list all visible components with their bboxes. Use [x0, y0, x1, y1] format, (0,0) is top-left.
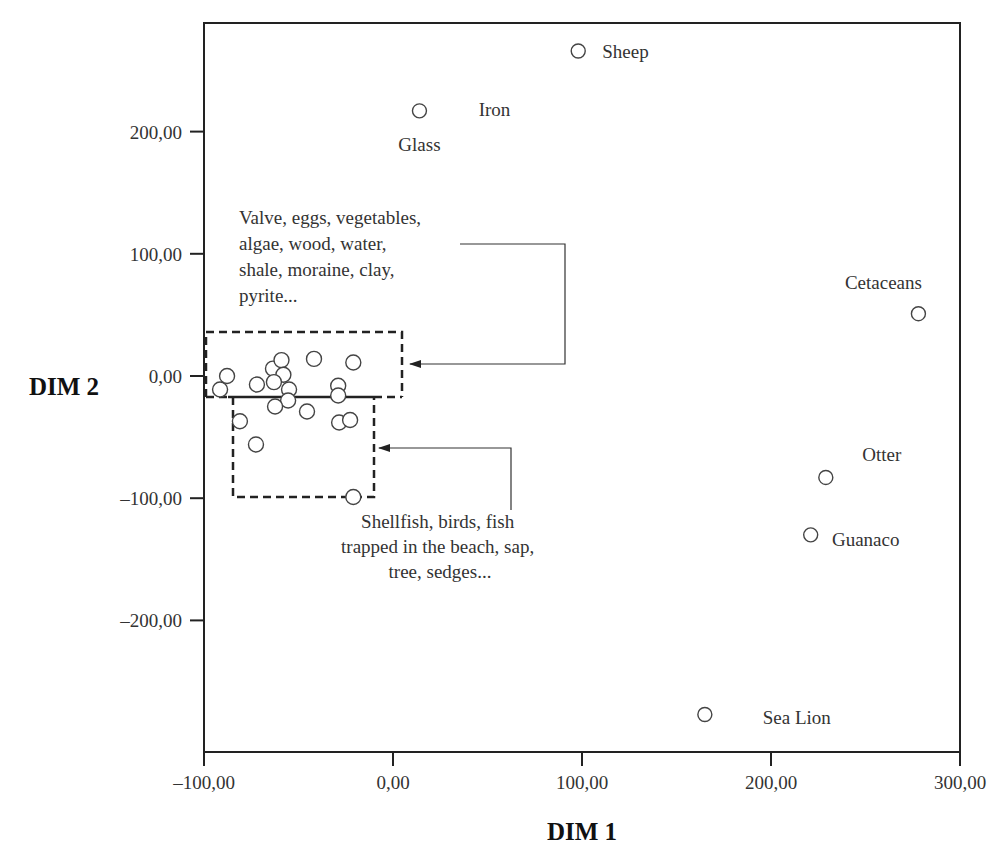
- point-label: Cetaceans: [845, 272, 922, 293]
- point-label: Sea Lion: [763, 707, 832, 728]
- x-axis-title: DIM 1: [547, 818, 617, 845]
- data-point: [911, 307, 925, 321]
- x-tick-label: 200,00: [745, 772, 797, 793]
- scatter-chart: –100,000,00100,00200,00300,00 200,00100,…: [0, 0, 1004, 855]
- data-point: [306, 351, 321, 366]
- data-point: [268, 399, 283, 414]
- x-tick-label: 0,00: [376, 772, 409, 793]
- data-point: [343, 412, 358, 427]
- x-tick-label: 100,00: [556, 772, 608, 793]
- data-point: [266, 375, 281, 390]
- data-point: [346, 489, 361, 504]
- data-point: [571, 44, 585, 58]
- annotation-line: Shellfish, birds, fish: [361, 511, 515, 532]
- point-label: Glass: [398, 134, 440, 155]
- data-point: [346, 355, 361, 370]
- annotation-line: pyrite...: [239, 285, 298, 306]
- y-tick-label: –200,00: [119, 610, 182, 631]
- y-tick-label: 100,00: [130, 244, 182, 265]
- annotation-line: Valve, eggs, vegetables,: [239, 207, 421, 228]
- data-point: [412, 104, 426, 118]
- data-point: [213, 382, 228, 397]
- upper-annotation-arrow: [410, 244, 565, 364]
- point-label: Sheep: [602, 41, 648, 62]
- data-point: [804, 528, 818, 542]
- lower-annotation-arrow: [379, 448, 511, 510]
- point-label: Iron: [479, 99, 511, 120]
- x-tick-label: –100,00: [172, 772, 235, 793]
- y-axis-title: DIM 2: [29, 373, 99, 400]
- annotation-line: tree, sedges...: [389, 561, 492, 582]
- x-tick-label: 300,00: [934, 772, 986, 793]
- point-label: Otter: [862, 444, 902, 465]
- y-tick-label: 0,00: [149, 366, 182, 387]
- lower-annotation-text: Shellfish, birds, fish trapped in the be…: [341, 511, 539, 582]
- data-point: [300, 404, 315, 419]
- data-point: [249, 377, 264, 392]
- annotation-line: shale, moraine, clay,: [239, 259, 394, 280]
- data-point: [220, 369, 235, 384]
- labeled-points: SheepGlassIronCetaceansOtterGuanacoSea L…: [398, 41, 925, 729]
- annotation-line: trapped in the beach, sap,: [341, 536, 534, 557]
- cluster-points: [213, 351, 361, 504]
- data-point: [232, 414, 247, 429]
- upper-group-box: [206, 332, 402, 397]
- point-label: Guanaco: [832, 529, 900, 550]
- y-axis: 200,00100,000,00–100,00–200,00: [119, 122, 204, 632]
- x-axis: –100,000,00100,00200,00300,00: [172, 752, 986, 793]
- data-point: [274, 353, 289, 368]
- data-point: [331, 388, 346, 403]
- upper-annotation-text: Valve, eggs, vegetables, algae, wood, wa…: [239, 207, 426, 306]
- plot-frame: [204, 23, 960, 752]
- data-point: [819, 470, 833, 484]
- data-point: [248, 437, 263, 452]
- annotation-line: algae, wood, water,: [239, 233, 386, 254]
- y-tick-label: –100,00: [119, 488, 182, 509]
- data-point: [698, 707, 712, 721]
- y-tick-label: 200,00: [130, 122, 182, 143]
